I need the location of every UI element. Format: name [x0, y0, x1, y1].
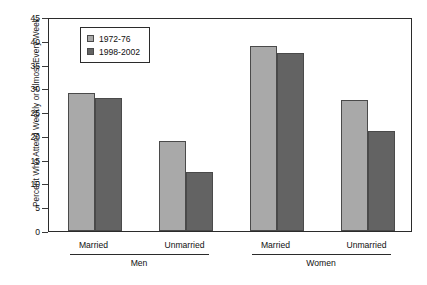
- bar: [341, 100, 368, 231]
- legend-item-label: 1972-76: [99, 34, 131, 44]
- x-axis-category-label: Married: [79, 240, 108, 250]
- legend-swatch-icon: [87, 35, 94, 42]
- chart-figure: Percent Who Attend Weekly or Almost Ever…: [0, 0, 427, 285]
- bar: [68, 93, 95, 231]
- y-axis-tick-label: 40: [16, 37, 40, 47]
- y-axis-tick-label: 25: [16, 108, 40, 118]
- x-axis-group-rule: [70, 254, 209, 255]
- chart-legend: 1972-761998-2002: [80, 27, 150, 63]
- x-axis-category-label: Married: [261, 240, 290, 250]
- bar: [159, 141, 186, 231]
- legend-item-label: 1998-2002: [99, 47, 140, 57]
- y-axis-tick-label: 45: [16, 13, 40, 23]
- bar: [186, 172, 213, 231]
- x-axis-category-label: Unmarried: [164, 240, 204, 250]
- y-axis-tick-label: 10: [16, 179, 40, 189]
- legend-swatch-icon: [87, 48, 94, 55]
- y-axis-tick: [42, 232, 48, 233]
- bar: [250, 46, 277, 231]
- y-axis-tick-label: 5: [16, 203, 40, 213]
- x-axis-group-label: Men: [131, 258, 148, 268]
- figure-caption: [14, 274, 314, 285]
- x-axis-category-label: Unmarried: [346, 240, 386, 250]
- x-axis-group-label: Women: [306, 258, 335, 268]
- y-axis-tick-label: 35: [16, 61, 40, 71]
- bar: [277, 53, 304, 231]
- x-axis-group-rule: [252, 254, 391, 255]
- y-axis-tick-label: 20: [16, 132, 40, 142]
- bar: [368, 131, 395, 231]
- bar: [95, 98, 122, 231]
- legend-item: 1998-2002: [87, 45, 140, 58]
- y-axis-tick-label: 0: [16, 227, 40, 237]
- y-axis-tick-label: 15: [16, 156, 40, 166]
- legend-item: 1972-76: [87, 32, 140, 45]
- y-axis-tick-label: 30: [16, 84, 40, 94]
